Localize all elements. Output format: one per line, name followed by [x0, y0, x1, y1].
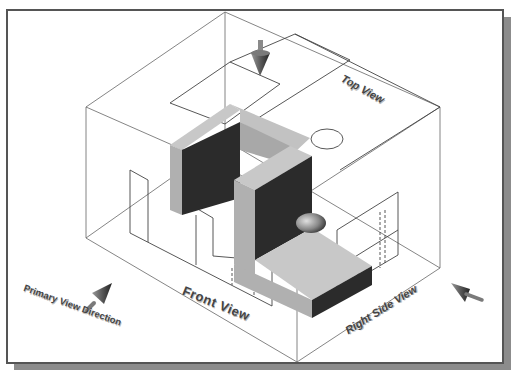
right-view-arrow-icon: [451, 283, 482, 302]
hole: [296, 213, 326, 233]
top-view-arrow-icon: [251, 40, 270, 76]
glass-box-diagram: [0, 0, 514, 375]
